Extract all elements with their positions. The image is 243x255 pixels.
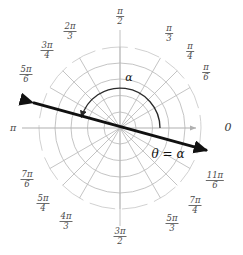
polar-graph-figure: π6 π4 π3 π2 2π3 3π4 5π6 7π6 5π4 4π3 3π2 … — [0, 0, 243, 255]
angle-label-five-pi-over-4: 5π4 — [37, 194, 50, 212]
angle-label-pi-over-4: π4 — [186, 42, 194, 60]
angle-label-three-pi-over-2: 3π2 — [114, 227, 127, 245]
angle-label-five-pi-over-6: 5π6 — [20, 65, 33, 83]
angle-label-five-pi-over-3: 5π3 — [166, 214, 179, 232]
angle-label-four-pi-over-3: 4π3 — [60, 212, 73, 230]
angle-label-pi-over-2: π2 — [116, 7, 124, 25]
theta-equals-alpha-label: θ = α — [151, 148, 184, 160]
angle-label-seven-pi-over-4: 7π4 — [189, 196, 202, 214]
angle-label-pi-over-3: π3 — [165, 24, 173, 42]
angle-label-eleven-pi-over-6: 11π6 — [206, 171, 224, 189]
angle-label-three-pi-over-4: 3π4 — [41, 41, 54, 59]
alpha-angle-label: α — [125, 72, 132, 83]
polar-plot-svg — [0, 0, 243, 255]
angle-arc — [81, 88, 160, 128]
axis-label-zero: 0 — [225, 122, 232, 133]
angle-label-pi-over-6: π6 — [202, 63, 210, 81]
axis-label-pi: π — [10, 123, 16, 133]
angle-label-seven-pi-over-6: 7π6 — [21, 170, 34, 188]
angle-label-two-pi-over-3: 2π3 — [64, 22, 77, 40]
